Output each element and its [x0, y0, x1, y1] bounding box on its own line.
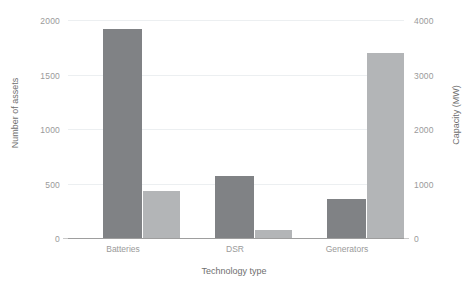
ytick-label-right-4000: 4000 [414, 16, 460, 26]
bar-group-batteries [103, 20, 213, 238]
bar-dsr-number-of-assets[interactable] [215, 176, 254, 238]
tick-mark-left-0 [63, 238, 68, 239]
xtick-label-generators: Generators [307, 244, 387, 254]
bar-generators-capacity[interactable] [367, 53, 404, 238]
y-axis-label-left: Number of assets [10, 53, 20, 173]
bar-generators-number-of-assets[interactable] [327, 199, 366, 238]
bar-batteries-number-of-assets[interactable] [103, 29, 142, 238]
ytick-label-right-1000: 1000 [414, 180, 460, 190]
ytick-label-left-1500: 1500 [14, 71, 60, 81]
ytick-label-left-1000: 1000 [14, 125, 60, 135]
plot-area [68, 20, 404, 238]
ytick-label-left-500: 500 [14, 180, 60, 190]
bars-layer [68, 20, 404, 238]
bar-chart: 2000 1500 1000 500 0 4000 3000 2000 1000… [0, 0, 468, 288]
x-axis-label: Technology type [0, 266, 468, 276]
ytick-label-left-2000: 2000 [14, 16, 60, 26]
xtick-label-batteries: Batteries [83, 244, 163, 254]
tick-mark-right-0 [404, 238, 409, 239]
bar-group-dsr [215, 20, 325, 238]
y-axis-label-right: Capacity (MW) [451, 55, 461, 175]
bar-batteries-capacity[interactable] [143, 191, 180, 238]
xtick-label-dsr: DSR [195, 244, 275, 254]
x-axis-line [63, 238, 409, 239]
ytick-label-left-0: 0 [14, 234, 60, 244]
ytick-label-right-0: 0 [414, 234, 460, 244]
bar-dsr-capacity[interactable] [255, 230, 292, 238]
